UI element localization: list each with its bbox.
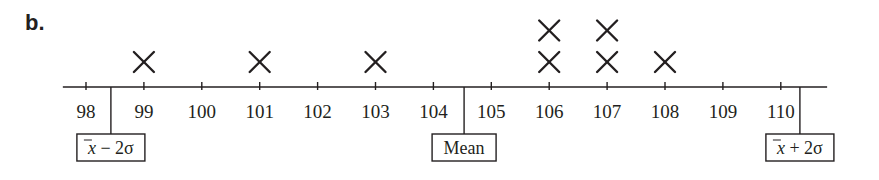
tick-label: 105	[477, 101, 506, 122]
tick-label: 107	[593, 101, 622, 122]
x-marker-icon	[539, 21, 559, 41]
tick-label: 98	[77, 101, 96, 122]
tick-label: 109	[709, 101, 738, 122]
annotation-upper-label: x + 2σ	[776, 138, 823, 158]
x-marker-icon	[655, 52, 675, 72]
x-marker-icon	[597, 21, 617, 41]
x-marker-icon	[597, 52, 617, 72]
x-marker-icon	[539, 52, 559, 72]
annotation-lower-label: x − 2σ	[87, 138, 134, 158]
tick-label: 99	[134, 101, 153, 122]
tick-label: 101	[245, 101, 274, 122]
tick-label: 108	[651, 101, 680, 122]
annotation-mean-label: Mean	[444, 138, 485, 158]
x-marker-icon	[134, 52, 154, 72]
dot-plot: 9899100101102103104105106107108109110x −…	[0, 0, 879, 180]
tick-label: 106	[535, 101, 564, 122]
tick-label: 103	[361, 101, 390, 122]
x-marker-icon	[250, 52, 270, 72]
tick-label: 102	[303, 101, 332, 122]
tick-label: 100	[188, 101, 217, 122]
tick-label: 110	[767, 101, 795, 122]
x-marker-icon	[366, 52, 386, 72]
tick-label: 104	[419, 101, 448, 122]
